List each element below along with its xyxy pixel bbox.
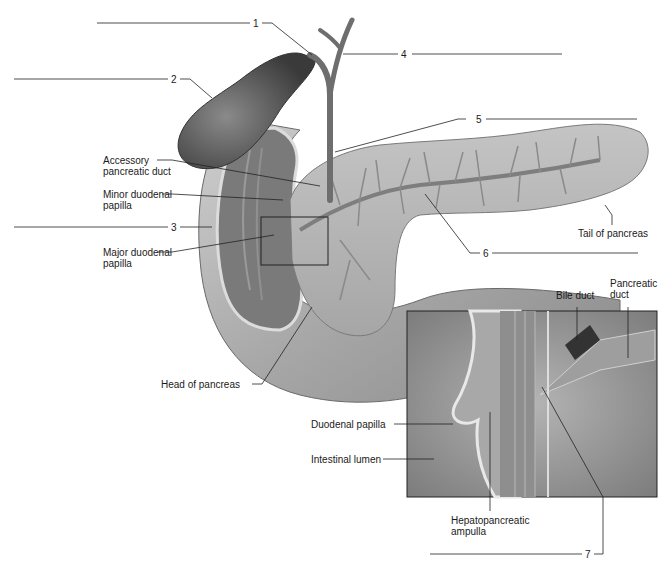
label-pancreatic-duct: Pancreatic duct [610, 278, 657, 300]
label-major-duodenal-papilla: Major duodenal papilla [103, 247, 172, 269]
anatomy-diagram: 1 2 3 4 5 6 7 Accessory pancreatic duct … [0, 0, 671, 576]
anatomy-illustration [0, 0, 671, 576]
label-tail-of-pancreas: Tail of pancreas [578, 228, 648, 239]
blank-number-5: 5 [476, 114, 482, 125]
label-duodenal-papilla: Duodenal papilla [311, 419, 386, 430]
label-intestinal-lumen: Intestinal lumen [311, 454, 381, 465]
blank-number-1: 1 [253, 18, 259, 29]
blank-number-2: 2 [171, 74, 177, 85]
label-accessory-pancreatic-duct: Accessory pancreatic duct [103, 155, 171, 177]
blank-number-6: 6 [483, 248, 489, 259]
inset-panel [407, 311, 657, 497]
blank-number-4: 4 [401, 49, 407, 60]
label-hepatopancreatic-ampulla: Hepatopancreatic ampulla [451, 515, 529, 537]
blank-number-7: 7 [585, 549, 591, 560]
label-minor-duodenal-papilla: Minor duodenal papilla [103, 189, 172, 211]
label-head-of-pancreas: Head of pancreas [161, 379, 240, 390]
label-bile-duct: Bile duct [556, 290, 594, 301]
blank-number-3: 3 [171, 222, 177, 233]
